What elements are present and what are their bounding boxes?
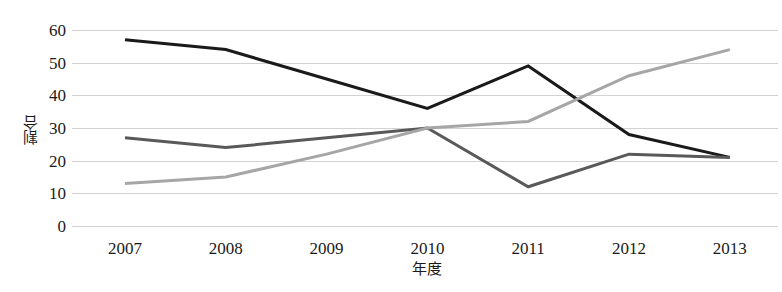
x-axis-tick-labels: 2007200820092010201120122013年度 — [0, 0, 782, 292]
x-tick-label: 2007 — [85, 240, 165, 257]
x-tick-label: 2013 — [690, 240, 770, 257]
x-tick-label: 2011 — [488, 240, 568, 257]
x-tick-label: 2010 — [387, 240, 467, 257]
x-tick-label: 2008 — [186, 240, 266, 257]
x-tick-label: 2012 — [589, 240, 669, 257]
x-axis-title: 年度 — [382, 262, 472, 277]
line-chart: 割合 6050403020100 20072008200920102011201… — [0, 0, 782, 292]
x-tick-label: 2009 — [287, 240, 367, 257]
